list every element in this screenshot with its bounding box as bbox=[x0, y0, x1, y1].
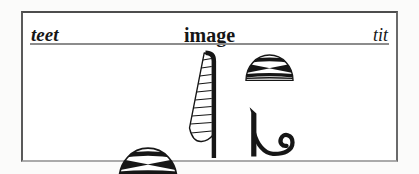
basket-hieroglyph-icon bbox=[245, 50, 294, 85]
glyph-figure-panel: teet image tit bbox=[21, 11, 398, 162]
panel-header: teet image tit bbox=[23, 13, 396, 46]
page: teet image tit bbox=[0, 0, 419, 174]
coil-hieroglyph-icon bbox=[246, 106, 302, 160]
glyph-canvas bbox=[23, 45, 396, 160]
basket-hieroglyph-icon bbox=[118, 146, 178, 174]
feather-hieroglyph-icon bbox=[188, 50, 230, 160]
